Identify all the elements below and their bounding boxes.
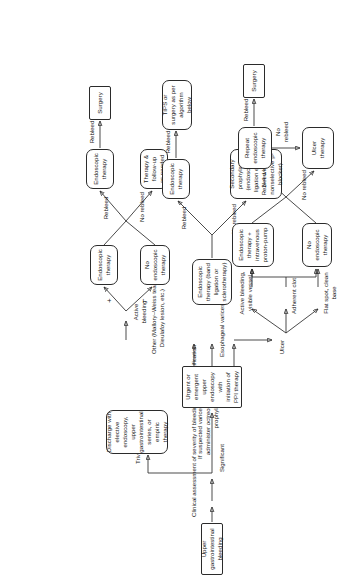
label-ulcer-no-rebleed-2: No rebleed <box>274 119 290 145</box>
node-discharge-label: Discharge with elective endoscopy, upper… <box>105 411 169 452</box>
node-urgent-endoscopy-label: Urgent or emergent upper endoscopy with … <box>184 370 240 404</box>
node-varices-endoscopic-therapy: Endoscopic therapy (band ligation or scl… <box>192 259 232 305</box>
node-varices-tips: TIPS or surgery as per algorithm below <box>162 80 192 130</box>
node-ulcer-endoscopic-ppi-label: Endoscopic therapy + intravenous proton-… <box>237 227 269 263</box>
node-ulcer-no-endoscopic-therapy-label: No endoscopic therapy <box>305 227 329 263</box>
node-other-endoscopic-therapy-2: Endoscopic therapy <box>86 149 114 189</box>
node-ulcer-repeat-endoscopic-therapy-label: Repeat endoscopic therapy <box>243 131 267 165</box>
node-ulcer-surgery: Surgery <box>243 64 265 98</box>
node-urgent-endoscopy: Urgent or emergent upper endoscopy with … <box>182 366 242 408</box>
label-ulcer-rebleed: Rebleed <box>260 167 268 201</box>
label-minus-sign: − <box>140 298 148 303</box>
node-start-label: Upper gastrointestinal bleeding <box>200 527 224 571</box>
label-plus-sign: + <box>106 298 114 303</box>
node-other-endoscopic-therapy: Endoscopic therapy <box>90 245 118 285</box>
label-other-no-rebleed: No rebleed <box>138 187 146 227</box>
label-other-rebleed: Rebleed <box>102 191 110 225</box>
node-other-endoscopic-therapy-label: Endoscopic therapy <box>96 249 112 281</box>
node-other-surgery-label: Surgery <box>96 92 104 113</box>
node-other-endoscopic-therapy-2-label: Endoscopic therapy <box>92 153 108 185</box>
label-adherent-clot: Adherent clot <box>290 277 298 315</box>
node-ulcer-no-endoscopic-therapy: No endoscopic therapy <box>302 223 332 267</box>
label-esophageal-varices: Esophageal varices <box>218 307 226 357</box>
label-other-rebleed-2: Rebleed <box>88 117 96 147</box>
node-varices-endoscopic-therapy-2: Endoscopic therapy <box>162 159 190 199</box>
node-other-no-endoscopic-therapy: No endoscopic therapy <box>140 245 170 285</box>
node-varices-tips-label: TIPS or surgery as per algorithm below <box>161 84 193 126</box>
node-ulcer-therapy: Ulcer therapy <box>302 127 334 169</box>
flowchart-canvas: Upper gastrointestinal bleedingClinical … <box>0 0 357 583</box>
label-other-branch: Other (Mallory–Weiss tear, Dieulafoy les… <box>150 275 166 361</box>
node-ulcer-repeat-endoscopic-therapy: Repeat endoscopic therapy <box>238 127 272 169</box>
label-varices-rebleed-2: Rebleed <box>164 127 172 157</box>
label-active-bleeding-visible-vessel: Active bleeding, visible vessel <box>238 271 254 315</box>
label-ulcer-no-rebleed: No rebleed <box>300 165 308 205</box>
node-ulcer-endoscopic-ppi: Endoscopic therapy + intravenous proton-… <box>232 223 274 267</box>
node-varices-endoscopic-therapy-2-label: Endoscopic therapy <box>168 163 184 195</box>
label-ulcer-rebleed-2: Rebleed <box>242 95 250 125</box>
node-ulcer-therapy-label: Ulcer therapy <box>310 131 326 165</box>
node-ulcer-surgery-label: Surgery <box>250 70 258 91</box>
node-start: Upper gastrointestinal bleeding <box>201 523 223 575</box>
node-varices-endoscopic-therapy-label: Endoscopic therapy (band ligation or scl… <box>196 263 228 302</box>
label-varices-rebleed: Rebleed <box>180 201 188 235</box>
node-other-no-endoscopic-therapy-label: No endoscopic therapy <box>143 249 167 281</box>
node-discharge: Discharge with elective endoscopy, upper… <box>106 410 168 454</box>
node-other-surgery: Surgery <box>89 86 111 120</box>
label-ulcer: Ulcer <box>278 333 286 361</box>
label-flat-spot-clean-base: Flat spot, clean base <box>322 271 338 315</box>
